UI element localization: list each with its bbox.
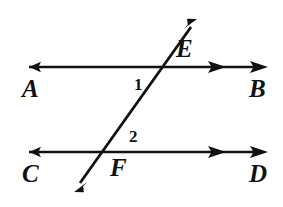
- label-point-d: D: [249, 161, 267, 186]
- label-angle-2: 2: [129, 128, 138, 145]
- transversal-bottom-arrowhead: [74, 182, 87, 192]
- label-point-c: C: [22, 161, 39, 186]
- label-point-f: F: [110, 155, 127, 180]
- transversal-line-shaft: [80, 27, 191, 183]
- lower-parallel-line-group: [29, 146, 268, 158]
- label-angle-1: 1: [134, 76, 143, 93]
- label-point-b: B: [249, 76, 266, 101]
- label-point-a: A: [22, 76, 39, 101]
- upper-parallel-line-group: [29, 61, 268, 73]
- geometry-canvas: [0, 0, 283, 207]
- label-point-e: E: [176, 36, 193, 61]
- geometry-figure: A B C D E F 1 2: [0, 0, 283, 207]
